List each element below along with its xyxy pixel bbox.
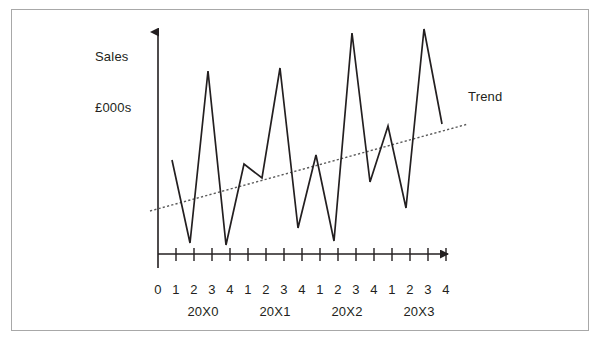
x-axis-tick-label: 4 — [220, 282, 240, 297]
x-axis-tick-label: 1 — [382, 282, 402, 297]
x-axis-tick-label: 2 — [328, 282, 348, 297]
x-axis-tick-label: 1 — [166, 282, 186, 297]
x-axis-year-label: 20X3 — [389, 304, 449, 319]
x-axis-tick-label: 4 — [292, 282, 312, 297]
x-axis-tick-label: 4 — [436, 282, 456, 297]
x-axis-tick-label: 2 — [256, 282, 276, 297]
chart-canvas: Sales £000s Trend — [0, 0, 602, 342]
sales-data-line — [172, 29, 442, 245]
x-axis-origin-label: 0 — [148, 282, 168, 297]
x-axis-tick-label: 2 — [184, 282, 204, 297]
x-axis-year-label: 20X1 — [245, 304, 305, 319]
x-axis-year-label: 20X2 — [317, 304, 377, 319]
x-axis-tick-label: 3 — [202, 282, 222, 297]
x-axis-tick-label: 2 — [400, 282, 420, 297]
x-axis-tick-label: 1 — [238, 282, 258, 297]
x-axis-tick-label: 3 — [274, 282, 294, 297]
x-axis-tick-label: 3 — [418, 282, 438, 297]
x-axis-year-label: 20X0 — [173, 304, 233, 319]
x-axis-tick-label: 1 — [310, 282, 330, 297]
x-axis-tick-label: 4 — [364, 282, 384, 297]
x-axis-tick-label: 3 — [346, 282, 366, 297]
